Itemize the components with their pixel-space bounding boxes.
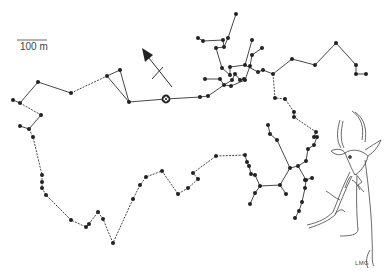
fix-point <box>222 83 226 87</box>
fix-point <box>283 97 287 101</box>
fix-point <box>214 154 218 158</box>
tracks-layer <box>13 14 366 243</box>
fix-point <box>203 77 207 81</box>
fix-point <box>228 73 232 77</box>
fix-point <box>111 241 115 245</box>
fix-point <box>275 138 279 142</box>
fix-point <box>290 57 294 61</box>
fix-point <box>201 39 205 43</box>
track-segment <box>71 76 107 93</box>
fix-point <box>300 200 304 204</box>
fix-point <box>256 70 260 74</box>
track-segment <box>20 115 41 129</box>
fix-point <box>303 186 307 190</box>
fix-point <box>233 72 237 76</box>
fix-point <box>198 95 202 99</box>
fix-point <box>39 113 43 117</box>
fix-point <box>248 202 252 206</box>
fix-point <box>191 171 195 175</box>
fix-point <box>303 178 307 182</box>
fix-point <box>334 41 338 45</box>
fix-point <box>253 173 257 177</box>
fix-point <box>248 64 252 68</box>
fix-point <box>243 63 247 67</box>
fix-point <box>18 124 22 128</box>
fix-point <box>229 84 233 88</box>
fix-point <box>293 216 297 220</box>
fix-point <box>273 96 277 100</box>
fix-point <box>144 175 148 179</box>
fix-point <box>186 186 190 190</box>
track-segment <box>224 14 236 47</box>
fix-point <box>105 74 109 78</box>
fix-point <box>245 160 249 164</box>
fix-point <box>220 66 224 70</box>
fix-point <box>69 91 73 95</box>
fix-point <box>196 36 200 40</box>
track-segment <box>268 125 290 168</box>
fix-point <box>31 135 35 139</box>
fix-point <box>11 98 15 102</box>
fix-point <box>271 72 275 76</box>
fix-point <box>292 110 296 114</box>
fix-point <box>242 77 246 81</box>
fix-point <box>36 80 40 84</box>
fix-point <box>40 186 44 190</box>
map-figure: 100 m LMG <box>0 0 392 272</box>
fix-point <box>364 72 368 76</box>
fix-point <box>249 172 253 176</box>
fix-point <box>196 177 200 181</box>
antelope-drawing-icon <box>307 111 381 268</box>
fix-point <box>230 78 234 82</box>
fix-point <box>228 65 232 69</box>
fix-point <box>250 53 254 57</box>
fix-point <box>243 153 247 157</box>
fix-point <box>306 147 310 151</box>
fix-point <box>18 101 22 105</box>
fix-point <box>297 209 301 213</box>
north-arrow-icon <box>142 48 172 87</box>
scale-bar-label: 100 m <box>20 41 48 52</box>
fix-point <box>40 173 44 177</box>
fix-point <box>69 218 73 222</box>
fix-point <box>127 100 131 104</box>
fix-point <box>314 130 318 134</box>
track-segment <box>107 70 129 102</box>
fix-point <box>253 191 257 195</box>
fix-point <box>176 192 180 196</box>
fix-point <box>222 45 226 49</box>
fix-point <box>284 192 288 196</box>
fix-point <box>354 72 358 76</box>
fix-point <box>260 46 264 50</box>
fix-point <box>44 193 48 197</box>
track-segment <box>200 79 224 97</box>
fix-point <box>266 123 270 127</box>
fix-point <box>206 94 210 98</box>
fix-point <box>313 63 317 67</box>
fix-point <box>304 159 308 163</box>
track-segment <box>13 82 71 103</box>
fix-point <box>40 180 44 184</box>
fix-point <box>312 143 316 147</box>
artist-initials: LMG <box>355 260 369 266</box>
fix-point <box>138 183 142 187</box>
track-segment <box>273 74 316 132</box>
fix-point <box>84 225 88 229</box>
track-segment <box>20 103 41 115</box>
track-map <box>0 0 392 272</box>
fix-point <box>214 46 218 50</box>
fix-point <box>288 166 292 170</box>
start-location-icon <box>163 96 170 103</box>
fix-point <box>131 197 135 201</box>
fix-point <box>268 132 272 136</box>
fix-point <box>278 183 282 187</box>
fix-point <box>118 68 122 72</box>
fix-points-layer <box>11 12 368 245</box>
fix-point <box>261 68 265 72</box>
fix-point <box>292 115 296 119</box>
fix-point <box>27 127 31 131</box>
fix-point <box>310 176 314 180</box>
fix-point <box>101 217 105 221</box>
fix-point <box>296 164 300 168</box>
fix-point <box>250 38 254 42</box>
